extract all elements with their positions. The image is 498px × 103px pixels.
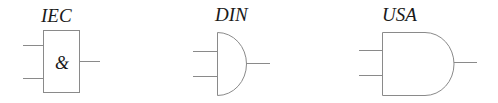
usa-label: USA xyxy=(382,4,417,25)
iec-and-gate: IEC & xyxy=(23,5,100,93)
usa-gate-body xyxy=(383,33,455,96)
din-gate-body xyxy=(218,33,247,96)
iec-label: IEC xyxy=(40,5,72,26)
iec-ampersand-symbol: & xyxy=(55,53,69,73)
din-label: DIN xyxy=(214,4,249,25)
din-and-gate: DIN xyxy=(193,4,270,96)
usa-and-gate: USA xyxy=(359,4,477,96)
and-gate-diagram: IEC & DIN USA xyxy=(0,0,498,103)
